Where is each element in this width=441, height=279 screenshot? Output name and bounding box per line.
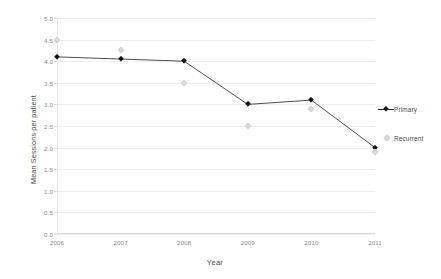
- y-tick-label: 4.0: [44, 58, 53, 65]
- series-line-primary: [57, 57, 375, 148]
- y-tick-label: 1.5: [44, 166, 53, 173]
- legend-item-primary[interactable]: Primary: [378, 104, 440, 114]
- chart-legend: Primary Recurrent: [378, 104, 440, 162]
- x-tick-label: 2006: [50, 239, 64, 246]
- y-tick-label: 0.5: [44, 209, 53, 216]
- legend-marker-primary-icon: [378, 105, 394, 114]
- y-tick-label: 3.5: [44, 79, 53, 86]
- series-line-layer: [57, 18, 375, 234]
- legend-item-recurrent[interactable]: Recurrent: [378, 133, 440, 143]
- y-axis-title: Mean Sessions per patient: [22, 0, 44, 279]
- y-tick-label: 1.0: [44, 187, 53, 194]
- gridline: [57, 234, 375, 235]
- y-tick-label: 4.5: [44, 36, 53, 43]
- y-tick-mark: [54, 234, 57, 235]
- x-tick-label: 2008: [177, 239, 191, 246]
- x-tick-label: 2007: [114, 239, 128, 246]
- legend-label-recurrent: Recurrent: [394, 135, 423, 142]
- legend-marker-recurrent-icon: [378, 134, 394, 143]
- y-tick-label: 2.5: [44, 123, 53, 130]
- chart-container: Mean Sessions per patient 0.00.51.01.52.…: [0, 0, 441, 279]
- legend-label-primary: Primary: [394, 106, 417, 113]
- y-tick-label: 0.0: [44, 231, 53, 238]
- y-tick-label: 2.0: [44, 144, 53, 151]
- y-tick-label: 5.0: [44, 15, 53, 22]
- x-tick-label: 2009: [241, 239, 255, 246]
- plot-area: 0.00.51.01.52.02.53.03.54.04.55.0 200620…: [57, 18, 375, 234]
- y-tick-label: 3.0: [44, 101, 53, 108]
- x-axis-title: Year: [55, 258, 375, 267]
- x-tick-label: 2011: [368, 239, 382, 246]
- x-tick-label: 2010: [304, 239, 318, 246]
